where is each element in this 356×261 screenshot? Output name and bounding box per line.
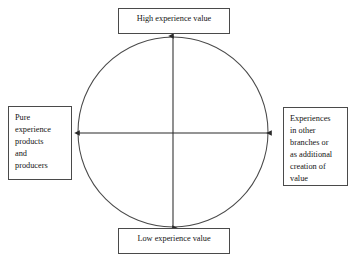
- label-line: and: [15, 148, 66, 160]
- label-box-high-experience-value: High experience value: [118, 8, 230, 34]
- label-box-low-experience-value: Low experience value: [118, 228, 230, 254]
- label-line: Pure: [15, 112, 66, 124]
- label-line: producers: [15, 160, 66, 172]
- label-box-pure-experience-products: Pure experience products and producers: [8, 106, 72, 180]
- label-line: products: [15, 136, 66, 148]
- label-line: High experience value: [126, 13, 222, 25]
- label-box-experiences-in-other-branches: Experiences in other branches or as addi…: [283, 107, 348, 186]
- label-line: creation of: [290, 161, 342, 173]
- label-line: as additional: [290, 149, 342, 161]
- diagram-canvas: High experience value Low experience val…: [0, 0, 356, 261]
- label-line: Low experience value: [126, 233, 222, 245]
- label-line: Experiences: [290, 113, 342, 125]
- label-line: experience: [15, 124, 66, 136]
- label-line: value: [290, 173, 342, 185]
- label-line: in other: [290, 125, 342, 137]
- label-line: branches or: [290, 137, 342, 149]
